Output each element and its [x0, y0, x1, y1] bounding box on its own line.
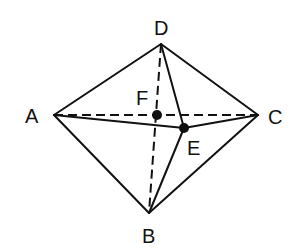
- point-F-dot: [152, 110, 162, 120]
- edge-AB: [54, 115, 149, 213]
- label-C: C: [268, 106, 282, 128]
- label-E: E: [187, 137, 200, 159]
- label-D: D: [154, 17, 168, 39]
- edge-EB: [149, 128, 184, 213]
- edge-BC: [149, 115, 258, 213]
- diagram-canvas: D A C B F E: [0, 0, 300, 251]
- octahedron-diagram: D A C B F E: [0, 0, 300, 251]
- point-E-dot: [179, 123, 189, 133]
- edge-DC: [161, 44, 258, 115]
- label-A: A: [25, 105, 39, 127]
- label-F: F: [136, 87, 148, 109]
- edge-AE: [54, 115, 184, 128]
- label-B: B: [142, 225, 155, 247]
